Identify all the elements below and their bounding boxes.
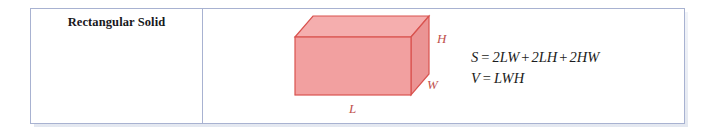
formula-term-3: 2HW [569, 49, 599, 65]
formula-volume: V=LWH [471, 68, 599, 89]
content-cell: H W L S=2LW+2LH+2HW V=LWH [203, 9, 684, 123]
label-length: L [348, 101, 356, 116]
rectangular-solid-svg: H W L [259, 9, 459, 123]
figure-root: Rectangular Solid [0, 0, 714, 138]
label-cell: Rectangular Solid [31, 9, 202, 123]
formula-term-1: 2LW [492, 49, 519, 65]
label-width: W [427, 77, 439, 92]
formula-equals: = [480, 70, 494, 86]
rectangular-solid-diagram: H W L [259, 9, 459, 123]
formula-operator-2: + [557, 49, 569, 65]
formula-lhs: V [471, 70, 480, 86]
table-frame: Rectangular Solid [30, 8, 685, 124]
solid-front-face [295, 37, 411, 95]
formula-surface-area: S=2LW+2LH+2HW [471, 47, 599, 68]
solid-top-face [295, 16, 429, 37]
formula-term-2: 2LH [531, 49, 557, 65]
formula-term-1: LWH [494, 70, 524, 86]
formula-operator-1: + [519, 49, 531, 65]
formula-equals: = [478, 49, 492, 65]
page-title: Rectangular Solid [31, 15, 202, 30]
label-height: H [436, 31, 447, 46]
formula-block: S=2LW+2LH+2HW V=LWH [471, 47, 599, 89]
